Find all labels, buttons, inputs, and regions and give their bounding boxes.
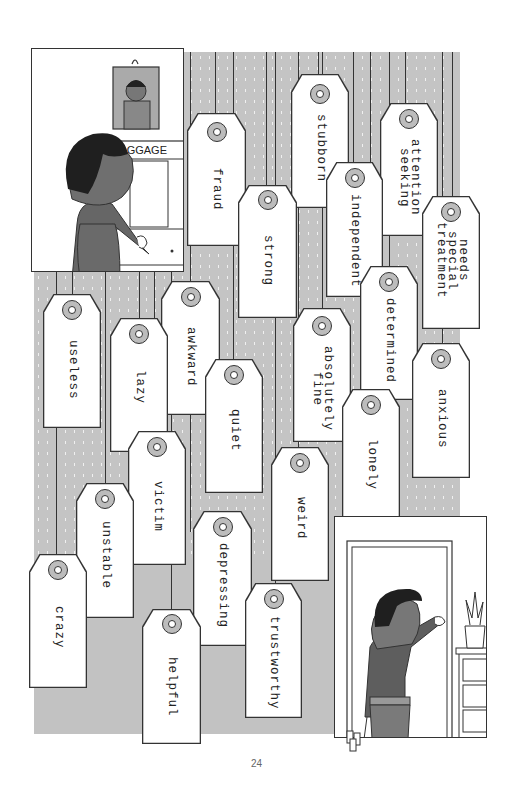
tag-label: needs special treatment xyxy=(435,222,468,299)
tag-quiet: quiet xyxy=(205,359,263,493)
tag-depressing: depressing xyxy=(193,511,252,646)
tag-label: unstable xyxy=(100,521,111,589)
tag-label: awkward xyxy=(185,327,196,387)
woman-at-cupboard-illustration: BAGGAGE xyxy=(32,49,184,272)
tag-label: lonely xyxy=(366,439,377,490)
small-tags-in-hand xyxy=(345,725,365,755)
tag-determined: determined xyxy=(360,266,418,400)
tag-needs-special-treatment: needs special treatment xyxy=(422,196,480,329)
tag-label: anxious xyxy=(436,389,447,449)
tag-label: determined xyxy=(384,298,395,383)
tag-label: depressing xyxy=(217,543,228,628)
tag-label: attention seeking xyxy=(398,139,420,216)
tag-anxious: anxious xyxy=(412,343,470,478)
tag-label: independent xyxy=(349,194,360,288)
tag-victim: victim xyxy=(128,431,186,565)
string xyxy=(452,52,453,212)
tag-crazy: crazy xyxy=(29,554,87,688)
panel-baggage-cupboard: BAGGAGE xyxy=(31,48,184,272)
tag-label: crazy xyxy=(53,606,64,649)
tag-useless: useless xyxy=(43,294,101,428)
string xyxy=(105,270,106,500)
tag-fraud: fraud xyxy=(187,113,246,246)
tag-lonely: lonely xyxy=(342,389,400,523)
tag-label: weird xyxy=(295,497,306,540)
page-number: 24 xyxy=(0,758,513,769)
tag-label: useless xyxy=(67,340,78,400)
tag-strong: strong xyxy=(238,185,297,318)
tag-label: stubborn xyxy=(315,114,326,182)
tag-label: quiet xyxy=(229,409,240,452)
tag-label: trustworthy xyxy=(268,616,279,710)
string xyxy=(266,52,267,197)
tag-label: strong xyxy=(262,235,273,286)
tag-label: helpful xyxy=(166,657,177,717)
tag-label: absolutely fine xyxy=(311,346,333,431)
plant-pot xyxy=(465,626,485,648)
tag-label: lazy xyxy=(134,370,145,404)
tag-trustworthy: trustworthy xyxy=(245,583,302,718)
woman-leaving-illustration xyxy=(335,517,487,738)
panel-doorway xyxy=(334,516,487,738)
tag-weird: weird xyxy=(271,447,329,581)
tag-label: victim xyxy=(152,481,163,532)
tag-helpful: helpful xyxy=(142,609,201,744)
tag-label: fraud xyxy=(211,168,222,211)
